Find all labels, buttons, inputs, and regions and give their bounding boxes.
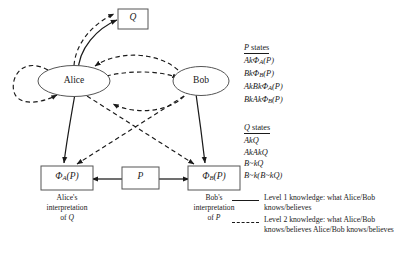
- p-state-item: AkΦA(P): [244, 55, 354, 68]
- p-state-item: BkAkΦB(P): [244, 94, 354, 107]
- alice-caption-line-3: of Q: [24, 213, 110, 223]
- q-states-heading: Q states: [244, 123, 270, 134]
- legend: Level 1 knowledge: what Alice/Bob knows/…: [232, 193, 418, 237]
- legend-level-2-line-2: knows/believes Alice/Bob knows/believes: [264, 225, 394, 234]
- legend-level-1-line-2: knows/believes: [264, 203, 311, 212]
- legend-text-level-2: Level 2 knowledge: what Alice/Bob knows/…: [264, 215, 394, 234]
- q-state-item: AkAkQ: [244, 147, 354, 158]
- p-states-heading: P states: [244, 43, 269, 54]
- legend-level-1-line-1: Level 1 knowledge: what Alice/Bob: [264, 193, 375, 202]
- states-panel: P states AkΦA(P) BkΦB(P) AkBkΦA(P) BkAkΦ…: [244, 36, 354, 191]
- edge-bob-to-phi-b-solid: [196, 94, 205, 163]
- bob-node-label: Bob: [173, 75, 229, 85]
- legend-text-level-1: Level 1 knowledge: what Alice/Bob knows/…: [264, 193, 375, 212]
- q-node-label: Q: [118, 12, 148, 22]
- alice-caption-line-2: interpretation: [24, 203, 110, 213]
- edge-alice-to-q-dashed: [74, 14, 114, 73]
- legend-level-2-line-1: Level 2 knowledge: what Alice/Bob: [264, 215, 375, 224]
- edge-alice-to-bob-dashed: [99, 72, 178, 78]
- alice-caption-line-1: Alice's: [24, 193, 110, 203]
- phi-a-symbol: Φ: [55, 171, 62, 181]
- edge-bob-to-alice-dashed: [95, 55, 178, 70]
- phi-b-symbol: Φ: [202, 171, 209, 181]
- dashed-line-swatch-icon: [232, 218, 259, 227]
- diagram-page: Q Alice Bob ΦA(P) P ΦB(P) Alice's interp…: [0, 0, 418, 255]
- p-states-group: P states AkΦA(P) BkΦB(P) AkBkΦA(P) BkAkΦ…: [244, 36, 354, 106]
- edge-bob-to-phi-a-dashed: [77, 96, 184, 164]
- q-states-group: Q states AkQ AkAkQ B~kQ B~k(B~kQ): [244, 116, 354, 181]
- edge-alice-to-phi-a-solid: [64, 94, 75, 163]
- q-state-item: B~kQ: [244, 158, 354, 169]
- phi-b-argument: (P): [214, 171, 226, 181]
- phi-a-argument: (P): [67, 171, 79, 181]
- p-state-item: AkBkΦA(P): [244, 81, 354, 94]
- phi-a-node-label: ΦA(P): [41, 171, 93, 181]
- edge-alice-to-phi-b-dashed: [87, 96, 194, 164]
- q-state-item: AkQ: [244, 135, 354, 146]
- edge-alice-to-q-solid: [78, 20, 117, 73]
- q-state-item: B~k(B~kQ): [244, 170, 354, 181]
- solid-line-swatch-icon: [232, 196, 259, 205]
- alice-interpretation-caption: Alice's interpretation of Q: [24, 193, 110, 224]
- alice-node-label: Alice: [38, 75, 110, 85]
- phi-b-node-label: ΦB(P): [188, 171, 240, 181]
- p-state-item: BkΦB(P): [244, 68, 354, 81]
- p-node-label: P: [122, 171, 159, 181]
- legend-row-level-1: Level 1 knowledge: what Alice/Bob knows/…: [232, 193, 418, 212]
- legend-row-level-2: Level 2 knowledge: what Alice/Bob knows/…: [232, 215, 418, 234]
